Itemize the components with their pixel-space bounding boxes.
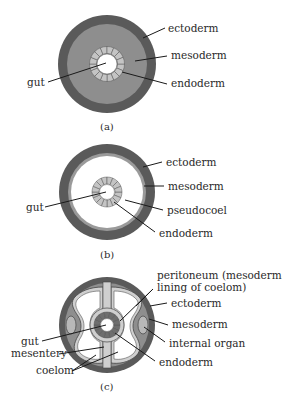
label-gut: gut	[26, 201, 44, 213]
panel-c-coelomate: peritoneum (mesodermal lining of coelom)…	[11, 269, 282, 392]
label-ectoderm: ectoderm	[166, 156, 217, 168]
gut-lumen	[97, 54, 117, 74]
mesentery-dorsal	[103, 282, 111, 312]
label-peritoneum-line1: peritoneum (mesodermal	[157, 269, 282, 281]
label-mesoderm: mesoderm	[171, 49, 227, 61]
label-pseudocoel: pseudocoel	[167, 204, 228, 216]
label-endoderm: endoderm	[171, 77, 225, 89]
caption-b: (b)	[100, 249, 114, 260]
panel-a-acoelomate: ectoderm mesoderm endoderm gut (a)	[27, 15, 227, 132]
label-gut: gut	[21, 335, 39, 347]
label-mesoderm: mesoderm	[172, 318, 228, 330]
label-mesoderm: mesoderm	[168, 180, 224, 192]
label-ectoderm: ectoderm	[171, 297, 222, 309]
label-internal-organ: internal organ	[169, 337, 246, 349]
label-ectoderm: ectoderm	[168, 22, 219, 34]
internal-organ-right	[138, 316, 148, 334]
label-endoderm: endoderm	[159, 227, 213, 239]
label-peritoneum-line2: lining of coelom)	[157, 281, 246, 293]
caption-c: (c)	[100, 381, 114, 392]
gut-lumen	[101, 319, 114, 332]
label-coelom: coelom	[36, 364, 74, 376]
panel-b-pseudocoelomate: ectoderm mesoderm pseudocoel endoderm gu…	[26, 144, 228, 260]
leader-ectoderm	[150, 303, 167, 306]
mesentery-ventral	[103, 338, 111, 368]
gut-lumen	[100, 185, 115, 200]
internal-organ-left	[66, 316, 76, 334]
caption-a: (a)	[100, 121, 114, 132]
label-mesentery: mesentery	[11, 347, 67, 359]
leader-ectoderm	[143, 28, 165, 38]
label-gut: gut	[27, 76, 45, 88]
body-plan-diagram: ectoderm mesoderm endoderm gut (a) ectod…	[0, 0, 282, 407]
label-endoderm: endoderm	[159, 356, 213, 368]
